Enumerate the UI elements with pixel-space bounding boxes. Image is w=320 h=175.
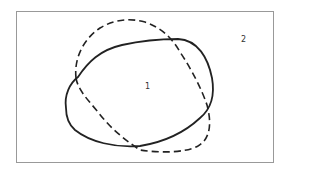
dashed-closed-curve bbox=[76, 20, 210, 152]
region-label-2: 2 bbox=[241, 35, 246, 44]
solid-closed-curve bbox=[66, 39, 213, 146]
region-label-1: 1 bbox=[145, 82, 150, 91]
